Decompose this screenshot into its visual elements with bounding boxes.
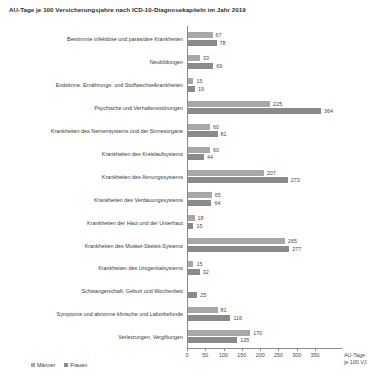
category-group: Krankheiten des Urogenitalsystems1532	[0, 257, 373, 280]
bar-value-label: 44	[207, 154, 213, 160]
bar-männer[interactable]	[188, 215, 195, 221]
bar-row: 15	[188, 78, 373, 84]
bar-row: 81	[188, 131, 373, 137]
bar-männer[interactable]	[188, 238, 285, 244]
category-label: Psychische und Verhaltensstörungen	[94, 105, 183, 112]
bar-value-label: 273	[291, 177, 300, 183]
category-group: Krankheiten des Muskel-Skelett-Systems26…	[0, 234, 373, 257]
category-group: Neubildungen3369	[0, 51, 373, 74]
legend-label: Männer	[37, 362, 55, 368]
x-axis-tick-label: 300	[292, 352, 301, 358]
category-group: Krankheiten der Haut und der Unterhaut18…	[0, 211, 373, 234]
category-group: Krankheiten des Verdauungssystems6564	[0, 188, 373, 211]
bar-männer[interactable]	[188, 124, 210, 130]
legend-swatch-maenner	[31, 363, 35, 367]
bar-value-label: 81	[221, 307, 227, 313]
bar-row: 15	[188, 223, 373, 229]
bar-männer[interactable]	[188, 261, 193, 267]
x-axis-tick-label: 200	[256, 352, 265, 358]
bar-value-label: 15	[196, 78, 202, 84]
legend-item-maenner[interactable]: Männer	[31, 362, 55, 368]
bar-frauen[interactable]	[188, 269, 200, 275]
chart-title: AU-Tage je 100 Versicherungsjahre nach I…	[9, 6, 246, 13]
bar-row: 265	[188, 238, 373, 244]
category-label: Krankheiten der Haut und der Unterhaut	[87, 219, 183, 226]
bar-value-label: 60	[213, 124, 219, 130]
bar-männer[interactable]	[188, 78, 193, 84]
bar-value-label: 78	[220, 40, 226, 46]
bar-row: 44	[188, 154, 373, 160]
bar-row: 18	[188, 215, 373, 221]
bar-value-label: 69	[216, 63, 222, 69]
bar-value-label: 33	[203, 55, 209, 61]
category-group: Verletzungen, Vergiftungen170135	[0, 326, 373, 349]
category-group: Krankheiten des Kreislaufsystems6044	[0, 143, 373, 166]
bar-frauen[interactable]	[188, 40, 217, 46]
bar-frauen[interactable]	[188, 292, 197, 298]
bar-row: 32	[188, 269, 373, 275]
bar-frauen[interactable]	[188, 337, 237, 343]
bar-frauen[interactable]	[188, 86, 195, 92]
bar-frauen[interactable]	[188, 131, 218, 137]
bar-value-label: 19	[198, 86, 204, 92]
bar-value-label: 25	[200, 292, 206, 298]
legend-item-frauen[interactable]: Frauen	[64, 362, 87, 368]
bar-row: 81	[188, 307, 373, 313]
bar-value-label: 277	[292, 246, 301, 252]
bar-row: 67	[188, 32, 373, 38]
bar-value-label: 116	[233, 315, 242, 321]
bar-row: 116	[188, 315, 373, 321]
x-axis-caption-line2: je 100 VJ	[344, 359, 366, 366]
x-axis-tick-label: 100	[219, 352, 228, 358]
category-label: Neubildungen	[150, 59, 183, 66]
bar-value-label: 65	[215, 192, 221, 198]
category-label: Krankheiten des Verdauungssystems	[94, 196, 183, 203]
bar-männer[interactable]	[188, 101, 270, 107]
bar-frauen[interactable]	[188, 154, 204, 160]
bar-männer[interactable]	[188, 170, 264, 176]
chart-legend: MännerFrauen	[31, 362, 87, 368]
x-axis-caption-line1: AU-Tage	[344, 352, 366, 359]
bar-männer[interactable]	[188, 55, 200, 61]
category-label: Symptome und abnorme klinische und Labor…	[57, 311, 183, 318]
bar-row: 25	[188, 292, 373, 298]
category-label: Krankheiten des Urogenitalsystems	[98, 265, 183, 272]
bar-row: 170	[188, 330, 373, 336]
bar-row: 60	[188, 147, 373, 153]
bar-value-label: 32	[203, 269, 209, 275]
bar-frauen[interactable]	[188, 223, 193, 229]
bar-männer[interactable]	[188, 147, 210, 153]
bar-männer[interactable]	[188, 32, 213, 38]
x-axis-tick-label: 50	[202, 352, 208, 358]
bar-männer[interactable]	[188, 307, 218, 313]
category-label: Bestimmte infektiöse und parasitäre Kran…	[67, 36, 183, 43]
category-label: Endokrine, Ernährungs- und Stoffwechselk…	[56, 82, 183, 89]
category-group: Endokrine, Ernährungs- und Stoffwechselk…	[0, 74, 373, 97]
bar-frauen[interactable]	[188, 200, 211, 206]
x-axis-tick-label: 0	[186, 352, 189, 358]
bar-row: 64	[188, 200, 373, 206]
bar-frauen[interactable]	[188, 246, 289, 252]
bar-row: 207	[188, 170, 373, 176]
legend-label: Frauen	[70, 362, 87, 368]
category-label: Krankheiten des Atmungssystems	[102, 173, 183, 180]
plot-area: 050100150200250300350 AU-Tage je 100 VJ …	[0, 26, 373, 352]
bar-value-label: 81	[221, 131, 227, 137]
bar-row: 273	[188, 177, 373, 183]
bar-value-label: 15	[196, 261, 202, 267]
bar-value-label: 15	[196, 223, 202, 229]
category-group: Symptome und abnorme klinische und Labor…	[0, 303, 373, 326]
category-group: Bestimmte infektiöse und parasitäre Kran…	[0, 28, 373, 51]
chart-container: AU-Tage je 100 Versicherungsjahre nach I…	[0, 0, 373, 385]
bar-männer[interactable]	[188, 330, 250, 336]
category-label: Krankheiten des Muskel-Skelett-Systems	[85, 242, 183, 249]
x-axis-tick-label: 250	[274, 352, 283, 358]
bar-frauen[interactable]	[188, 63, 213, 69]
bar-row: 15	[188, 261, 373, 267]
bar-frauen[interactable]	[188, 108, 321, 114]
bar-frauen[interactable]	[188, 315, 230, 321]
bar-männer[interactable]	[188, 192, 212, 198]
bar-row: 135	[188, 337, 373, 343]
bar-frauen[interactable]	[188, 177, 288, 183]
x-axis-tick-label: 150	[237, 352, 246, 358]
